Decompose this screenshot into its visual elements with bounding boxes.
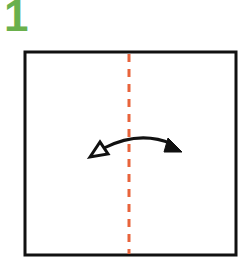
origami-diagram xyxy=(0,0,247,269)
